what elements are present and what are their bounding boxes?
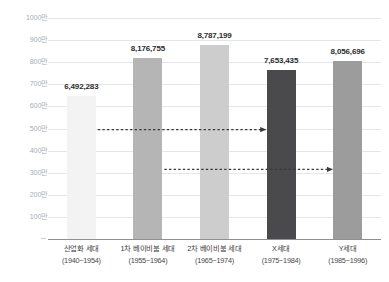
bar-value-label: 7,653,435 [246,57,316,65]
y-axis-tick-label: 300만 [4,169,48,176]
gridline [48,40,381,41]
y-axis-tick-label: 700만 [4,80,48,87]
y-axis-tick-label: 600만 [4,102,48,109]
y-axis-tick-label: 400만 [4,147,48,154]
x-axis-category-label: Y세대(1985~1996) [308,243,388,266]
x-axis-category-name: Y세대 [339,244,357,253]
x-axis-category-years: (1985~1996) [308,255,388,267]
gridline [48,18,381,19]
y-axis-tick-label: 900만 [4,36,48,43]
bar [133,58,162,239]
y-axis-tick-label: 500만 [4,125,48,132]
y-axis-tick-label: 800만 [4,58,48,65]
bar [200,45,229,239]
y-axis-tick-stub [41,238,46,239]
bar-value-label: 8,056,696 [313,48,383,56]
x-axis-category-name: 1차 베이비붐 세대 [121,244,176,253]
y-axis-tick-label: 1000만 [4,14,48,21]
bar-value-label: 8,787,199 [180,32,250,40]
x-axis-category-name: 산업화 세대 [64,244,100,253]
bar-chart: 6,492,2838,176,7558,787,1997,653,4358,05… [0,0,389,282]
x-axis-category-name: 2차 베이비붐 세대 [187,244,242,253]
bar [333,61,362,239]
axis-baseline [48,239,381,240]
x-axis-category-name: X세대 [272,244,290,253]
bar-value-label: 8,176,755 [113,45,183,53]
bar-value-label: 6,492,283 [46,83,116,91]
bar [67,96,96,239]
plot-area: 6,492,2838,176,7558,787,1997,653,4358,05… [48,18,381,239]
x-axis-category-labels: 산업화 세대(1940~1954)1차 베이비붐 세대(1955~1964)2차… [48,243,381,275]
y-axis-tick-label: 200만 [4,191,48,198]
y-axis-tick-label: 100만 [4,213,48,220]
bar [267,70,296,239]
